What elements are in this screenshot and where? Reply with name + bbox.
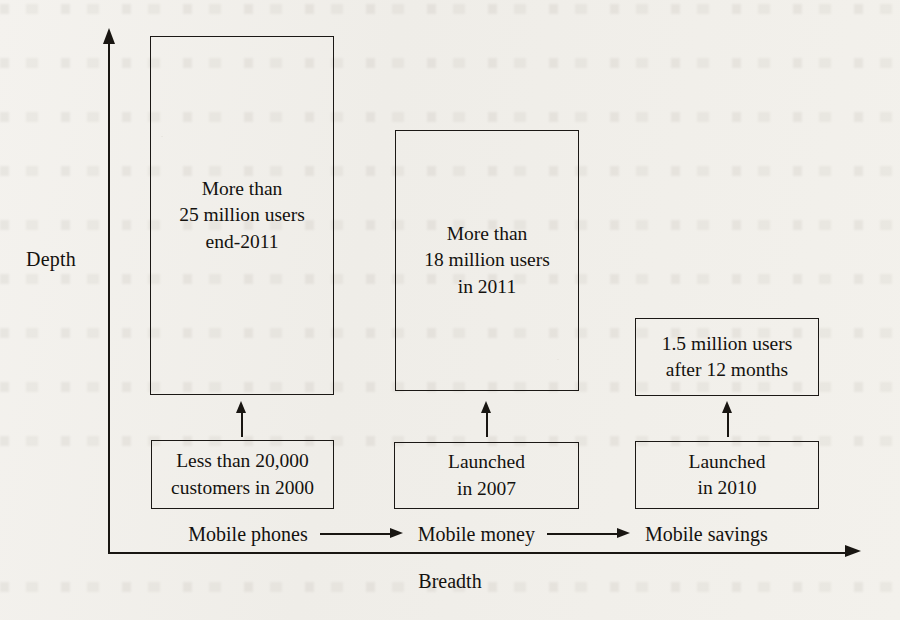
right-arrow-icon	[547, 528, 633, 540]
category-label-mobile-phones: Mobile phones	[188, 523, 307, 546]
y-axis-label: Depth	[26, 248, 76, 271]
x-axis-line	[108, 552, 848, 554]
paper-texture	[0, 112, 900, 122]
depth-box-mobile-phones: More than 25 million users end-2011	[150, 36, 334, 395]
depth-box-line-1: More than	[179, 176, 305, 202]
launch-box-line-1: Launched	[448, 449, 525, 475]
depth-box-line-3: in 2011	[424, 274, 550, 300]
depth-box-line-1: 1.5 million users	[662, 331, 793, 357]
depth-box-line-2: 25 million users	[179, 202, 305, 228]
depth-box-mobile-savings: 1.5 million users after 12 months	[635, 318, 819, 396]
x-axis-label: Breadth	[0, 570, 900, 593]
launch-box-line-1: Launched	[689, 449, 766, 475]
right-arrow-icon	[320, 528, 406, 540]
launch-box-mobile-savings: Launched in 2010	[635, 441, 819, 509]
y-axis-line	[108, 42, 110, 554]
depth-box-line-2: 18 million users	[424, 247, 550, 273]
launch-box-line-2: in 2010	[689, 475, 766, 501]
depth-box-line-2: after 12 months	[662, 357, 793, 383]
y-axis-arrow-icon	[103, 28, 115, 44]
figure-canvas: Depth Breadth More than 25 million users…	[0, 0, 900, 620]
launch-box-line-1: Less than 20,000	[171, 448, 314, 474]
depth-box-line-1: More than	[424, 221, 550, 247]
category-axis-row: Mobile phones Mobile money Mobile saving…	[108, 519, 848, 549]
category-label-mobile-money: Mobile money	[418, 523, 535, 546]
launch-box-mobile-money: Launched in 2007	[394, 442, 579, 509]
depth-box-mobile-money: More than 18 million users in 2011	[395, 130, 579, 391]
depth-box-line-3: end-2011	[179, 229, 305, 255]
launch-box-mobile-phones: Less than 20,000 customers in 2000	[151, 440, 334, 509]
paper-texture	[0, 4, 900, 14]
category-label-mobile-savings: Mobile savings	[645, 523, 768, 546]
paper-texture	[0, 58, 900, 68]
launch-box-line-2: in 2007	[448, 476, 525, 502]
launch-box-line-2: customers in 2000	[171, 475, 314, 501]
